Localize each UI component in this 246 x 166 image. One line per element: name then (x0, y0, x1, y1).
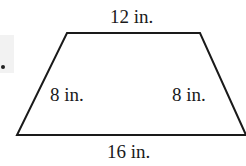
right-side-label: 8 in. (172, 85, 206, 104)
top-side-label: 12 in. (110, 7, 153, 26)
bottom-side-label: 16 in. (107, 142, 150, 161)
left-side-label: 8 in. (50, 85, 84, 104)
